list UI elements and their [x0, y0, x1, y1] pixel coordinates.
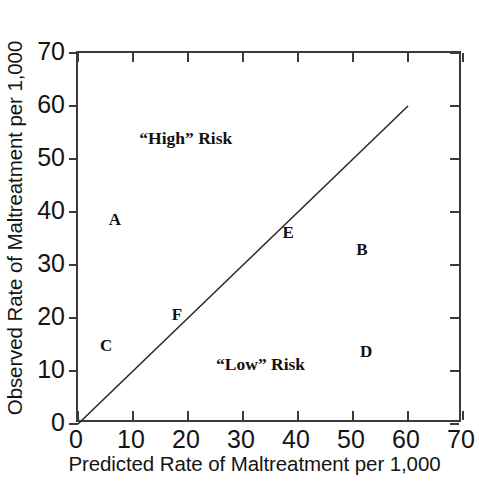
y-tick-mark — [69, 317, 78, 319]
plot-area: ABCDEF “High” Risk“Low” Risk — [76, 51, 461, 422]
region-annotation-low-risk: “Low” Risk — [216, 353, 305, 374]
y-axis-title: Observed Rate of Maltreatment per 1,000 — [0, 0, 30, 455]
x-tick-label: 70 — [431, 427, 479, 452]
y-tick-label: 10 — [7, 357, 65, 382]
data-point-b: B — [356, 240, 367, 260]
data-point-f: F — [172, 305, 182, 325]
y-tick-label: 40 — [7, 198, 65, 223]
x-tick-label: 50 — [321, 427, 381, 452]
y-tick-mark — [69, 211, 78, 213]
scatter-plot-figure: Observed Rate of Maltreatment per 1,000 … — [0, 0, 479, 487]
y-tick-mark — [69, 423, 78, 425]
y-tick-mark — [69, 264, 78, 266]
data-point-d: D — [360, 342, 372, 362]
x-tick-label: 10 — [101, 427, 161, 452]
y-tick-label: 60 — [7, 92, 65, 117]
data-point-a: A — [109, 210, 121, 230]
y-tick-label: 20 — [7, 304, 65, 329]
y-tick-label: 30 — [7, 251, 65, 276]
y-tick-label: 70 — [7, 39, 65, 64]
y-tick-label: 50 — [7, 145, 65, 170]
y-tick-mark — [69, 105, 78, 107]
x-tick-label: 60 — [376, 427, 436, 452]
data-point-e: E — [282, 223, 293, 243]
x-tick-label: 30 — [211, 427, 271, 452]
plot-inner: ABCDEF “High” Risk“Low” Risk — [78, 53, 459, 420]
x-axis-title: Predicted Rate of Maltreatment per 1,000 — [30, 452, 479, 476]
data-point-c: C — [100, 336, 112, 356]
y-tick-mark — [69, 158, 78, 160]
x-tick-label: 20 — [156, 427, 216, 452]
region-annotation-high-risk: “High” Risk — [139, 127, 232, 148]
x-tick-label: 0 — [46, 427, 106, 452]
y-tick-mark — [69, 370, 78, 372]
x-tick-label: 40 — [266, 427, 326, 452]
